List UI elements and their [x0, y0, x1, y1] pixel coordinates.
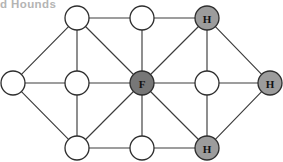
node-circle[interactable]	[65, 136, 89, 160]
graph-node-mid-far-left[interactable]	[1, 71, 25, 95]
graph-node-mid-left[interactable]	[65, 71, 89, 95]
graph-edge	[21, 26, 70, 75]
graph-node-bot-mid[interactable]	[130, 136, 154, 160]
graph-node-top-left[interactable]	[65, 6, 89, 30]
node-label: F	[139, 78, 146, 90]
figure-root: d Hounds HFHH	[0, 0, 283, 162]
graph-node-mid-far-right[interactable]: H	[258, 71, 282, 95]
node-circle[interactable]	[130, 6, 154, 30]
node-label: H	[266, 78, 275, 90]
graph-canvas: HFHH	[0, 0, 283, 162]
graph-node-mid-center[interactable]: F	[130, 71, 154, 95]
node-label: H	[203, 143, 212, 155]
graph-node-bot-right[interactable]: H	[195, 136, 219, 160]
graph-edge	[85, 91, 134, 140]
graph-edge	[85, 26, 134, 75]
graph-edge	[150, 26, 199, 75]
node-circle[interactable]	[65, 71, 89, 95]
node-circle[interactable]	[195, 71, 219, 95]
node-circle[interactable]	[65, 6, 89, 30]
graph-node-top-mid[interactable]	[130, 6, 154, 30]
graph-edge	[21, 91, 70, 140]
graph-edge	[215, 91, 263, 140]
graph-node-top-right[interactable]: H	[195, 6, 219, 30]
graph-node-bot-left[interactable]	[65, 136, 89, 160]
node-circle[interactable]	[130, 136, 154, 160]
graph-edge	[150, 91, 199, 140]
graph-node-mid-right[interactable]	[195, 71, 219, 95]
node-circle[interactable]	[1, 71, 25, 95]
node-label: H	[203, 13, 212, 25]
graph-edge	[215, 26, 263, 75]
